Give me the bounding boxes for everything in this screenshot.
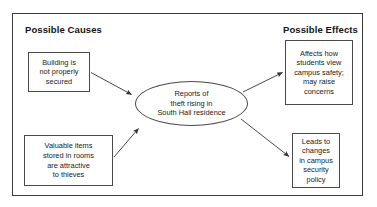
- central-event-label: Reports of theft rising in South Hall re…: [157, 89, 225, 117]
- cause-node-1-label: Building is not properly secured: [39, 58, 78, 87]
- effect-node-2: Leads to changes in campus security poli…: [292, 133, 340, 188]
- column-heading-possible-effects: Possible Effects: [283, 24, 358, 35]
- cause-node-2-label: Valuable items stored in rooms are attra…: [43, 141, 94, 179]
- column-heading-possible-causes: Possible Causes: [25, 24, 102, 35]
- central-event-node: Reports of theft rising in South Hall re…: [135, 81, 248, 126]
- cause-node-2: Valuable items stored in rooms are attra…: [24, 135, 113, 186]
- effect-node-1-label: Affects how students view campus safety;…: [294, 49, 344, 97]
- diagram-page: Possible Causes Possible Effects Buildin…: [0, 0, 377, 207]
- effect-node-1: Affects how students view campus safety;…: [285, 40, 353, 105]
- effect-node-2-label: Leads to changes in campus security poli…: [299, 137, 333, 185]
- cause-node-1: Building is not properly secured: [28, 52, 90, 92]
